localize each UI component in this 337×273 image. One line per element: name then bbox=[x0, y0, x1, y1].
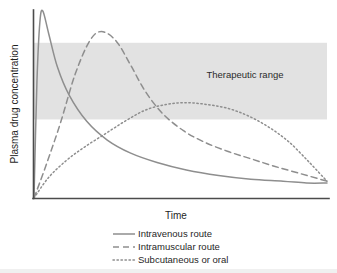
legend-item-intramuscular-route: Intramuscular route bbox=[113, 241, 220, 252]
y-axis-title: Plasma drug concentration bbox=[9, 45, 20, 164]
chart-legend: Intravenous route Intramuscular route Su… bbox=[113, 228, 228, 265]
legend-label-subcutaneous-or-oral: Subcutaneous or oral bbox=[138, 254, 228, 265]
chart-canvas: Therapeutic range Plasma drug concentrat… bbox=[0, 0, 337, 273]
legend-item-subcutaneous-or-oral: Subcutaneous or oral bbox=[113, 254, 228, 265]
x-axis-title: Time bbox=[165, 210, 187, 221]
therapeutic-range-band bbox=[34, 43, 327, 120]
therapeutic-range-label: Therapeutic range bbox=[206, 69, 283, 80]
footer-edge-band bbox=[0, 269, 337, 273]
legend-label-intramuscular-route: Intramuscular route bbox=[138, 241, 220, 252]
legend-label-intravenous-route: Intravenous route bbox=[138, 228, 212, 239]
chart-figure: Therapeutic range Plasma drug concentrat… bbox=[0, 0, 337, 273]
legend-item-intravenous-route: Intravenous route bbox=[113, 228, 212, 239]
